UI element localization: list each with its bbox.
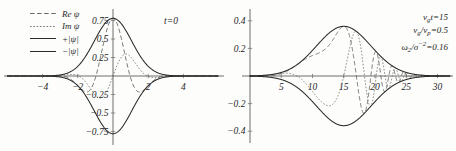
right-panel-parameter-annotations: vgt=15vg/vp=0.5ω2/σ−2=0.16 xyxy=(401,12,448,55)
x-tick-label: 25 xyxy=(402,82,412,92)
annotation-line-2: ω2/σ−2=0.16 xyxy=(401,38,448,55)
legend-item: Re ψ xyxy=(30,8,79,19)
legend-label-minus-abs-psi: −|ψ| xyxy=(62,46,79,56)
legend-item: Im ψ xyxy=(30,21,79,32)
x-tick-label: 15 xyxy=(339,82,349,92)
chart-panel-left: −4−2240.750.50.25−0.25−0.5−0.75 Re ψ Im … xyxy=(0,0,228,151)
chart-panel-right: 510152025300.40.2−0.2−0.4 vgt=15vg/vp=0.… xyxy=(228,0,456,151)
legend-label-plus-abs-psi: +|ψ| xyxy=(62,34,79,44)
x-tick-label: 4 xyxy=(181,82,186,92)
y-tick-label: −0.5 xyxy=(90,108,109,118)
legend-swatch-solid-plus xyxy=(30,34,56,43)
annotation-line-1: vg/vp=0.5 xyxy=(401,25,448,38)
legend-label-re-psi: Re ψ xyxy=(62,9,79,19)
y-tick-label: 0.75 xyxy=(92,16,109,26)
left-panel-time-annotation: t=0 xyxy=(164,16,178,26)
y-tick-label: −0.4 xyxy=(228,126,246,136)
y-tick-label: 0.4 xyxy=(234,16,246,26)
legend-item: +|ψ| xyxy=(30,33,79,44)
y-tick-label: −0.2 xyxy=(228,99,246,109)
legend-swatch-long-dash xyxy=(30,9,56,18)
legend-label-im-psi: Im ψ xyxy=(62,21,79,31)
x-tick-label: 30 xyxy=(432,82,443,92)
legend-item: −|ψ| xyxy=(30,46,79,57)
legend: Re ψ Im ψ +|ψ| −|ψ| xyxy=(30,8,79,58)
y-tick-label: 0.5 xyxy=(97,34,109,44)
dispersion-figure: −4−2240.750.50.25−0.25−0.5−0.75 Re ψ Im … xyxy=(0,0,456,151)
legend-swatch-short-dash xyxy=(30,22,56,31)
annotation-line-0: vgt=15 xyxy=(401,12,448,25)
x-tick-label: 5 xyxy=(279,82,284,92)
legend-swatch-solid-minus xyxy=(30,47,56,56)
x-tick-label: −4 xyxy=(37,82,48,92)
y-tick-label: 0.2 xyxy=(234,44,246,54)
